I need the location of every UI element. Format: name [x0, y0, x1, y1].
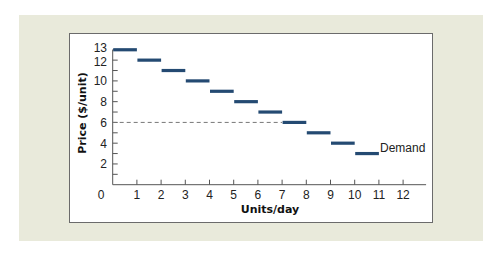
x-tick-label: 10	[348, 188, 362, 202]
figure: 1234567891011122468101213 0 Units/day Pr…	[0, 0, 502, 256]
y-tick-label: 13	[94, 41, 108, 55]
demand-series	[113, 50, 379, 154]
axes	[113, 50, 426, 185]
demand-label: Demand	[380, 141, 425, 155]
x-tick-label: 8	[303, 188, 310, 202]
y-tick-label: 2	[100, 157, 107, 171]
y-tick-label: 4	[100, 137, 107, 151]
y-tick-label: 12	[94, 55, 108, 69]
origin-label: 0	[98, 188, 105, 202]
x-tick-label: 1	[134, 188, 141, 202]
x-tick-label: 2	[158, 188, 165, 202]
ticks	[113, 50, 403, 185]
x-axis-title: Units/day	[241, 203, 300, 216]
x-tick-label: 7	[279, 188, 286, 202]
y-tick-label: 10	[94, 74, 108, 88]
x-tick-label: 11	[373, 188, 386, 202]
y-tick-label: 6	[100, 116, 107, 130]
x-tick-label: 6	[255, 188, 262, 202]
demand-step-chart: 1234567891011122468101213 0 Units/day Pr…	[0, 0, 502, 256]
y-axis-title: Price ($/unit)	[76, 72, 89, 154]
x-tick-label: 3	[182, 188, 189, 202]
y-tick-label: 8	[100, 95, 107, 109]
tick-labels: 1234567891011122468101213	[94, 41, 410, 202]
x-tick-label: 12	[396, 188, 410, 202]
x-tick-label: 5	[230, 188, 237, 202]
x-tick-label: 4	[206, 188, 213, 202]
x-tick-label: 9	[327, 188, 334, 202]
